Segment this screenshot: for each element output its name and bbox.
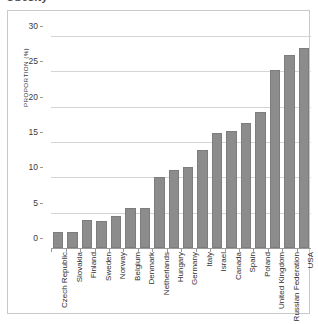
chart-page: Obesity PROPORTION (%) 051015202530 Czec… bbox=[0, 0, 318, 324]
bar bbox=[255, 112, 265, 248]
plot-area bbox=[51, 36, 311, 248]
y-tick-mark bbox=[40, 97, 43, 98]
bar bbox=[67, 232, 77, 248]
x-tick-label: Spain bbox=[249, 252, 257, 272]
bar bbox=[111, 216, 121, 248]
y-tick-mark bbox=[40, 203, 43, 204]
x-tick-label: Slovakia bbox=[76, 252, 84, 282]
y-tick-mark bbox=[40, 132, 43, 133]
x-tick-label: Poland bbox=[264, 252, 272, 277]
y-tick-mark bbox=[40, 167, 43, 168]
x-tick-label: Canada bbox=[235, 252, 243, 280]
bar bbox=[241, 123, 251, 248]
bar bbox=[183, 167, 193, 248]
x-axis-labels: Czech RepublicSlovakiaFinlandSwedenNorwa… bbox=[51, 252, 311, 324]
x-tick-label: USA bbox=[307, 252, 315, 268]
x-tick-label: Israel bbox=[220, 252, 228, 272]
bar bbox=[212, 133, 222, 248]
bar bbox=[270, 70, 280, 248]
x-tick-label: Hungary bbox=[177, 252, 185, 282]
y-tick-label: 20 bbox=[16, 93, 38, 102]
y-tick-label: 25 bbox=[16, 57, 38, 66]
bar bbox=[96, 221, 106, 248]
y-tick-mark bbox=[40, 26, 43, 27]
bar bbox=[125, 208, 135, 248]
bar bbox=[299, 48, 309, 248]
bar bbox=[140, 208, 150, 248]
bar bbox=[53, 232, 63, 248]
y-tick-mark bbox=[40, 61, 43, 62]
chart-frame: PROPORTION (%) 051015202530 Czech Republ… bbox=[7, 10, 310, 314]
x-tick-label: Norway bbox=[119, 252, 127, 279]
x-tick-label: Finland bbox=[90, 252, 98, 278]
x-tick-label: Netherlands bbox=[163, 252, 171, 295]
y-tick-label: 30 bbox=[16, 22, 38, 31]
y-tick-label: 15 bbox=[16, 128, 38, 137]
x-tick-label: Russian Federation bbox=[293, 252, 301, 321]
bars-layer bbox=[51, 36, 311, 248]
x-tick-label: Sweden bbox=[105, 252, 113, 281]
x-tick-label: Italy bbox=[206, 252, 214, 267]
x-tick-label: Belgium bbox=[134, 252, 142, 281]
x-tick-label: Germany bbox=[191, 252, 199, 285]
x-tick-label: Czech Republic bbox=[61, 252, 69, 308]
bar bbox=[154, 177, 164, 248]
y-tick-label: 10 bbox=[16, 163, 38, 172]
bar bbox=[284, 55, 294, 248]
y-tick-label: 5 bbox=[16, 199, 38, 208]
x-tick-label: United Kingdom bbox=[278, 252, 286, 309]
x-tick-label: Denmark bbox=[148, 252, 156, 284]
y-tick-mark bbox=[40, 238, 43, 239]
bar bbox=[197, 150, 207, 248]
bar bbox=[226, 131, 236, 248]
bar bbox=[82, 220, 92, 248]
y-tick-label: 0 bbox=[16, 234, 38, 243]
page-title: Obesity bbox=[6, 0, 126, 3]
bar bbox=[169, 170, 179, 248]
